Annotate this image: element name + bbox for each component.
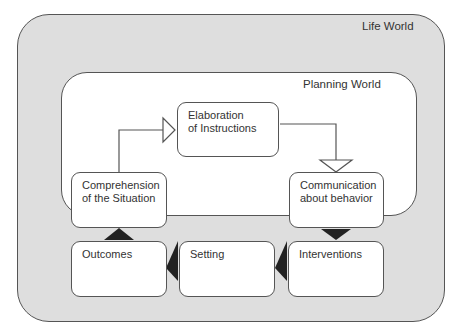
filled-arrow-icon — [104, 228, 134, 240]
node-label: Elaboration — [188, 109, 278, 122]
filled-arrow-icon — [275, 241, 287, 281]
node-setting: Setting — [179, 241, 275, 297]
node-label: Communication — [300, 179, 383, 192]
hollow-arrow-icon — [320, 160, 352, 172]
node-communication: Communication about behavior — [289, 172, 384, 228]
node-label: Comprehension — [82, 179, 166, 192]
node-label: Setting — [190, 248, 274, 261]
node-comprehension: Comprehension of the Situation — [71, 172, 167, 228]
filled-arrow-icon — [166, 241, 178, 281]
node-label: about behavior — [300, 192, 383, 205]
node-label: of the Situation — [82, 192, 166, 205]
hollow-arrow-icon — [163, 118, 175, 142]
node-interventions: Interventions — [288, 241, 384, 297]
filled-arrow-icon — [321, 229, 351, 240]
node-label: of Instructions — [188, 122, 278, 135]
node-label: Outcomes — [82, 248, 166, 261]
node-outcomes: Outcomes — [71, 241, 167, 297]
node-elaboration: Elaboration of Instructions — [177, 102, 279, 157]
node-label: Interventions — [299, 248, 383, 261]
